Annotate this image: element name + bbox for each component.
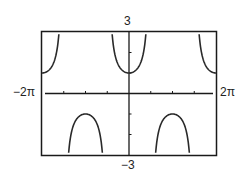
curve-branch <box>199 34 216 73</box>
x-max-label: 2π <box>220 86 235 98</box>
curve-branch <box>156 114 190 153</box>
y-min-label: −3 <box>121 159 135 169</box>
graph-window <box>0 0 236 169</box>
curve-branch <box>42 34 59 73</box>
x-min-label: −2π <box>13 86 35 98</box>
y-max-label: 3 <box>124 15 131 27</box>
curve-branch <box>69 114 103 153</box>
